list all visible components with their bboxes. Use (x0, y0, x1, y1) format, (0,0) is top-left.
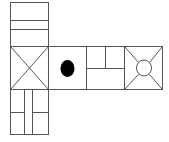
face-top (11, 3, 49, 47)
face-back (125, 47, 163, 90)
circle-icon (137, 60, 152, 76)
face-right (87, 47, 125, 90)
face-bottom (11, 90, 49, 135)
black-dot-icon (61, 60, 75, 77)
cube-net-diagram (0, 0, 169, 142)
face-left (11, 47, 49, 90)
